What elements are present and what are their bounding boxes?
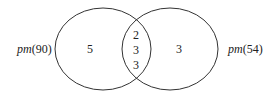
set-arg-left: (90): [32, 42, 52, 56]
set-name-right: pm: [228, 42, 243, 56]
set-label-left: pm(90): [17, 43, 52, 55]
left-only-count: 5: [87, 43, 93, 55]
set-arg-right: (54): [243, 42, 263, 56]
intersection-value-2: 3: [133, 44, 139, 56]
intersection-value-1: 2: [133, 29, 139, 41]
set-label-right: pm(54): [228, 43, 263, 55]
intersection-value-3: 3: [133, 59, 139, 71]
right-only-count: 3: [176, 43, 182, 55]
set-name-left: pm: [17, 42, 32, 56]
